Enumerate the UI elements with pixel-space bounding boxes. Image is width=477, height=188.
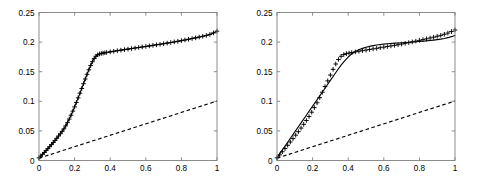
series-line-dashed-reference <box>39 101 217 158</box>
x-tick-label: 0.4 <box>343 164 355 173</box>
chart-svg-right: 00.20.40.60.8100.050.10.150.20.25 <box>238 0 477 188</box>
chart-svg-left: 00.20.40.60.8100.050.10.150.20.25 <box>0 0 238 188</box>
plot-area-left: 00.20.40.60.8100.050.10.150.20.25 <box>19 9 220 174</box>
y-tick-label: 0.15 <box>19 68 35 77</box>
x-tick-label: 0.2 <box>307 164 319 173</box>
y-tick-label: 0.25 <box>257 9 273 18</box>
series-line-solid-curve <box>277 35 455 157</box>
y-tick-label: 0 <box>268 157 273 166</box>
chart-panel-left: 00.20.40.60.8100.050.10.150.20.25 <box>0 0 238 188</box>
y-tick-label: 0.15 <box>257 68 273 77</box>
x-tick-label: 0.8 <box>176 164 188 173</box>
x-tick-label: 0 <box>275 164 280 173</box>
x-tick-label: 0.8 <box>414 164 426 173</box>
y-tick-label: 0.25 <box>19 9 35 18</box>
y-tick-label: 0.1 <box>23 97 35 106</box>
axis-frame-left <box>39 13 217 161</box>
series-line-dashed-reference <box>277 101 455 158</box>
x-tick-label: 1 <box>215 164 220 173</box>
figure-canvas: 00.20.40.60.8100.050.10.150.20.25 00.20.… <box>0 0 477 188</box>
y-tick-label: 0.2 <box>23 38 35 47</box>
x-tick-label: 0 <box>37 164 42 173</box>
y-tick-label: 0.05 <box>19 127 35 136</box>
y-tick-label: 0.1 <box>261 97 273 106</box>
y-tick-label: 0.2 <box>261 38 273 47</box>
x-tick-label: 0.6 <box>140 164 152 173</box>
plot-area-right: 00.20.40.60.8100.050.10.150.20.25 <box>257 9 458 174</box>
series-markers-marked-curve <box>37 29 220 160</box>
axis-frame-right <box>277 13 455 161</box>
x-tick-label: 1 <box>453 164 458 173</box>
x-tick-label: 0.4 <box>105 164 117 173</box>
chart-panel-right: 00.20.40.60.8100.050.10.150.20.25 <box>238 0 477 188</box>
y-tick-label: 0.05 <box>257 127 273 136</box>
x-tick-label: 0.6 <box>378 164 390 173</box>
y-tick-label: 0 <box>30 157 35 166</box>
x-tick-label: 0.2 <box>69 164 81 173</box>
